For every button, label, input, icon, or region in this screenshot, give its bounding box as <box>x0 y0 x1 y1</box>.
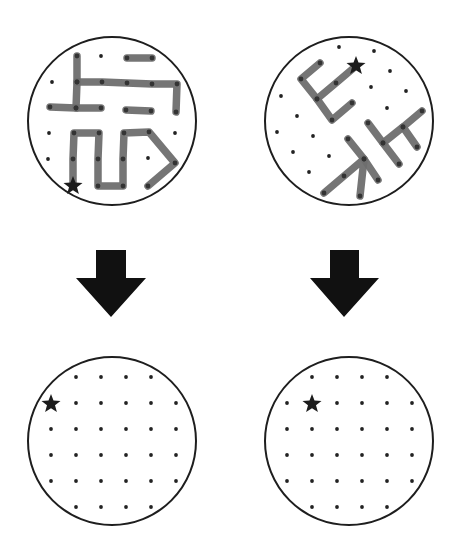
segment-vertex-dot <box>48 105 53 110</box>
grid-dot <box>295 114 299 118</box>
grid-dot <box>372 49 376 53</box>
arrows-group <box>76 250 379 317</box>
panel-top-left <box>28 37 196 205</box>
segment-vertex-dot <box>397 162 402 167</box>
grid-dot <box>310 427 314 431</box>
grid-dot <box>385 453 389 457</box>
grid-dot <box>335 401 339 405</box>
grid-dot <box>149 427 153 431</box>
grid-dot <box>285 401 289 405</box>
grid-dot <box>410 453 414 457</box>
segment-vertex-dot <box>366 121 371 126</box>
segment-vertex-dot <box>75 80 80 85</box>
grid-dot <box>99 479 103 483</box>
grid-dot <box>149 453 153 457</box>
grid-dot <box>335 479 339 483</box>
grid-dot <box>335 453 339 457</box>
segment-vertex-dot <box>350 101 355 106</box>
circle-outline <box>28 37 196 205</box>
grid-dot <box>50 80 54 84</box>
grid-dot <box>404 89 408 93</box>
segment-vertex-dot <box>122 131 127 136</box>
segment-vertex-dot <box>174 110 179 115</box>
segment-vertex-dot <box>358 194 363 199</box>
grid-dot <box>99 427 103 431</box>
segment-vertex-dot <box>415 145 420 150</box>
panel-bottom-right <box>265 357 433 525</box>
grid-dot <box>327 154 331 158</box>
segment-vertex-dot <box>299 77 304 82</box>
grid-dot <box>291 150 295 154</box>
grid-dot <box>49 479 53 483</box>
line-segment <box>126 110 151 111</box>
grid-dot <box>385 505 389 509</box>
grid-dot <box>99 401 103 405</box>
grid-dot <box>146 156 150 160</box>
grid-dot <box>124 375 128 379</box>
grid-dot <box>307 170 311 174</box>
grid-dot <box>49 427 53 431</box>
segment-vertex-dot <box>125 56 130 61</box>
grid-dot <box>410 401 414 405</box>
segment-vertex-dot <box>322 191 327 196</box>
segment-vertex-dot <box>420 109 425 114</box>
dot-grid <box>46 54 177 188</box>
star-icon <box>42 394 61 412</box>
grid-dot <box>385 375 389 379</box>
segment-vertex-dot <box>401 125 406 130</box>
segment-vertex-dot <box>100 80 105 85</box>
grid-dot <box>385 401 389 405</box>
line-pattern <box>48 54 180 189</box>
panel-top-right <box>265 37 433 205</box>
grid-dot <box>124 479 128 483</box>
down-arrow-icon <box>76 250 146 317</box>
segment-vertex-dot <box>149 109 154 114</box>
segment-vertex-dot <box>147 130 152 135</box>
grid-dot <box>337 45 341 49</box>
segment-vertex-dot <box>146 184 151 189</box>
grid-dot <box>335 505 339 509</box>
segment-vertex-dot <box>342 174 347 179</box>
grid-dot <box>310 375 314 379</box>
grid-dot <box>149 505 153 509</box>
segment-vertex-dot <box>74 106 79 111</box>
grid-dot <box>285 479 289 483</box>
grid-dot <box>385 479 389 483</box>
circle-outline <box>265 357 433 525</box>
segment-vertex-dot <box>125 81 130 86</box>
grid-dot <box>275 130 279 134</box>
dot-grid <box>49 375 178 509</box>
segment-vertex-dot <box>315 97 320 102</box>
grid-dot <box>99 505 103 509</box>
grid-dot <box>360 427 364 431</box>
grid-dot <box>74 427 78 431</box>
segment-vertex-dot <box>150 56 155 61</box>
circle-outline <box>28 357 196 525</box>
grid-dot <box>385 106 389 110</box>
segment-vertex-dot <box>124 108 129 113</box>
grid-dot <box>385 427 389 431</box>
grid-dot <box>310 453 314 457</box>
puzzle-figure <box>0 0 460 550</box>
grid-dot <box>285 453 289 457</box>
grid-dot <box>124 453 128 457</box>
grid-dot <box>285 427 289 431</box>
segment-vertex-dot <box>72 131 77 136</box>
grid-dot <box>310 505 314 509</box>
grid-dot <box>149 401 153 405</box>
segment-vertex-dot <box>96 184 101 189</box>
segment-vertex-dot <box>175 82 180 87</box>
grid-dot <box>279 94 283 98</box>
grid-dot <box>360 479 364 483</box>
segment-vertex-dot <box>173 161 178 166</box>
segment-vertex-dot <box>334 81 339 86</box>
segment-vertex-dot <box>318 61 323 66</box>
grid-dot <box>174 479 178 483</box>
grid-dot <box>388 69 392 73</box>
grid-dot <box>124 505 128 509</box>
segment-vertex-dot <box>362 157 367 162</box>
segment-vertex-dot <box>121 157 126 162</box>
grid-dot <box>311 134 315 138</box>
segment-vertex-dot <box>330 118 335 123</box>
grid-dot <box>149 375 153 379</box>
